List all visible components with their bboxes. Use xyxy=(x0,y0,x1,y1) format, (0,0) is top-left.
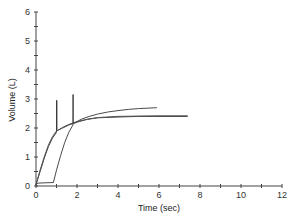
y-tick-label: 5 xyxy=(25,36,30,46)
series-curve-2 xyxy=(36,116,188,185)
y-axis-label: Volume (L) xyxy=(7,78,17,122)
y-tick-label: 2 xyxy=(25,123,30,133)
y-tick-label: 1 xyxy=(25,152,30,162)
y-tick-label: 0 xyxy=(25,181,30,191)
x-tick-label: 12 xyxy=(277,190,287,200)
axes: 0246810120123456 xyxy=(25,7,287,200)
x-tick-label: 4 xyxy=(115,190,120,200)
y-tick-label: 4 xyxy=(25,65,30,75)
series-curve-1 xyxy=(36,100,188,184)
x-axis-label: Time (sec) xyxy=(138,203,180,213)
x-tick-label: 8 xyxy=(197,190,202,200)
x-tick-label: 10 xyxy=(236,190,246,200)
y-tick-label: 6 xyxy=(25,7,30,17)
line-chart: 0246810120123456 Time (sec) Volume (L) xyxy=(0,0,297,221)
y-tick-label: 3 xyxy=(25,94,30,104)
data-series xyxy=(36,95,188,185)
series-curve-3 xyxy=(36,95,157,185)
x-tick-label: 6 xyxy=(156,190,161,200)
x-tick-label: 0 xyxy=(33,190,38,200)
x-tick-label: 2 xyxy=(74,190,79,200)
